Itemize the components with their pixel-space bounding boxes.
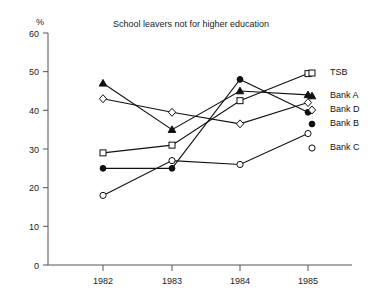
legend-label: Bank C [330, 142, 360, 152]
y-tick-label: 20 [29, 183, 39, 193]
series-line [103, 99, 308, 124]
data-point-marker-filled-triangle [99, 79, 107, 86]
legend-label: Bank A [330, 90, 359, 100]
series-layer [99, 71, 312, 199]
series-bank-c [100, 130, 311, 198]
data-point-marker-filled-circle [237, 77, 243, 83]
data-point-marker-open-diamond [304, 99, 311, 107]
data-point-marker-open-circle [309, 145, 315, 151]
data-point-marker-open-square [309, 70, 315, 76]
legend-label: Bank D [330, 104, 360, 114]
line-chart: School leavers not for higher education … [0, 0, 382, 299]
legend-item-tsb[interactable]: TSB [309, 67, 348, 77]
y-axis: 0102030405060 [29, 29, 48, 271]
legend-item-bank-c[interactable]: Bank C [309, 142, 360, 152]
data-point-marker-open-circle [237, 161, 243, 167]
series-line [103, 74, 308, 153]
y-axis-unit-label: % [36, 17, 44, 27]
data-point-marker-filled-triangle [168, 126, 176, 133]
data-point-marker-filled-triangle [236, 87, 244, 94]
series-bank-b [100, 77, 311, 172]
x-tick-label: 1982 [93, 276, 113, 286]
x-tick-label: 1984 [230, 276, 250, 286]
data-point-marker-filled-circle [169, 165, 175, 171]
series-tsb [100, 71, 311, 156]
x-tick-label: 1983 [162, 276, 182, 286]
data-point-marker-open-circle [100, 192, 106, 198]
data-point-marker-open-diamond [99, 95, 106, 103]
legend-item-bank-d[interactable]: Bank D [308, 104, 360, 114]
y-tick-label: 50 [29, 67, 39, 77]
data-point-marker-open-square [237, 98, 243, 104]
data-point-marker-open-square [169, 142, 175, 148]
y-tick-label: 40 [29, 106, 39, 116]
chart-legend: TSBBank ABank DBank BBank C [308, 67, 360, 152]
legend-label: TSB [330, 67, 348, 77]
legend-item-bank-b[interactable]: Bank B [309, 118, 359, 128]
data-point-marker-open-diamond [236, 120, 243, 128]
y-tick-label: 60 [29, 29, 39, 39]
data-point-marker-open-square [100, 150, 106, 156]
data-point-marker-open-circle [305, 130, 311, 136]
data-point-marker-open-circle [169, 158, 175, 164]
data-point-marker-open-diamond [168, 108, 175, 116]
y-tick-label: 30 [29, 145, 39, 155]
y-tick-label: 0 [34, 261, 39, 271]
legend-label: Bank B [330, 118, 359, 128]
chart-container: School leavers not for higher education … [0, 0, 382, 299]
y-tick-label: 10 [29, 222, 39, 232]
chart-title: School leavers not for higher education [113, 19, 269, 29]
data-point-marker-filled-circle [100, 165, 106, 171]
data-point-marker-filled-circle [309, 121, 315, 127]
x-axis: 1982198319841985 [93, 265, 318, 286]
series-line [103, 134, 308, 196]
legend-item-bank-a[interactable]: Bank A [308, 90, 358, 100]
x-tick-label: 1985 [298, 276, 318, 286]
